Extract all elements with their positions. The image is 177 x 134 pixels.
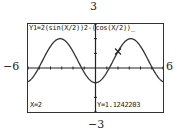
function-formula: Y1=2(sin(X/2))2-(cos(X/2))_ xyxy=(29,25,135,32)
trace-y-value: Y=1.1242203 xyxy=(97,102,140,109)
window-ymax-label: 3 xyxy=(90,1,97,12)
calculator-graph-screen: Y1=2(sin(X/2))2-(cos(X/2))_ X=2 Y=1.1242… xyxy=(27,23,164,113)
window-ymin-label: −3 xyxy=(88,119,104,130)
window-xmax-label: 6 xyxy=(166,61,173,72)
x-mark-cursor-icon xyxy=(115,49,121,55)
window-xmin-label: −6 xyxy=(3,61,19,72)
graph-plot xyxy=(28,24,163,112)
trace-x-value: X=2 xyxy=(30,102,42,109)
